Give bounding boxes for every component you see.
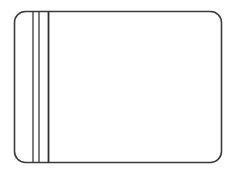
rounded-rectangle-outline	[15, 12, 222, 163]
drawing-canvas	[0, 0, 234, 173]
line-drawing-svg	[0, 0, 234, 173]
